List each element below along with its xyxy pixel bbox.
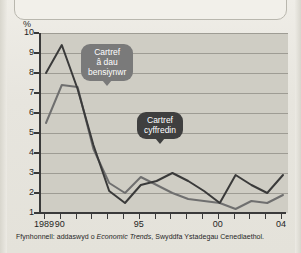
y-axis-tick-label: 2: [16, 188, 34, 197]
source-suffix: , Swyddfa Ystadegau Cenedlaethol.: [151, 233, 264, 240]
x-axis-tick: [123, 214, 124, 219]
page-right-edge: [295, 0, 301, 253]
x-axis-tick-label: 00: [213, 219, 223, 229]
y-axis-tick-label: 1: [16, 208, 34, 217]
chart-card-top-border: [14, 0, 287, 20]
chart-page: % 10987654321 198990950004 Cartref â dau…: [0, 0, 301, 253]
source-prefix: Ffynhonnell: addaswyd o: [16, 233, 97, 240]
x-axis-tick: [155, 214, 156, 219]
y-axis-tick-label: 8: [16, 68, 34, 77]
y-axis-tick-label: 3: [16, 168, 34, 177]
source-publication: Economic Trends: [97, 233, 152, 240]
x-axis-tick: [186, 214, 187, 219]
callout-pensioner-line3: bensiynwr: [88, 67, 126, 77]
x-axis-tick: [76, 214, 77, 219]
callout-average-tail: [155, 138, 165, 144]
x-axis-tick: [107, 214, 108, 219]
source-footnote: Ffynhonnell: addaswyd o Economic Trends,…: [16, 233, 293, 240]
x-axis-tick: [170, 214, 171, 219]
y-axis-tick-label: 6: [16, 108, 34, 117]
y-axis-tick-label: 10: [16, 28, 34, 37]
callout-pensioner-line2: â dau: [88, 57, 126, 67]
y-axis-tick-label: 4: [16, 148, 34, 157]
x-axis-tick-label: 1989: [34, 219, 54, 229]
callout-pensioner-tail: [102, 80, 112, 86]
x-axis-tick: [91, 214, 92, 219]
callout-average-line1: Cartref: [144, 115, 176, 125]
page-left-edge: [0, 0, 7, 253]
callout-pensioner-household: Cartref â dau bensiynwr: [81, 44, 133, 81]
x-axis-tick-label: 95: [134, 219, 144, 229]
x-axis-tick-label: 04: [276, 219, 286, 229]
y-axis-tick-label: 5: [16, 128, 34, 137]
x-axis-tick: [265, 214, 266, 219]
x-axis-tick: [249, 214, 250, 219]
callout-average-line2: cyffredin: [144, 125, 176, 135]
callout-pensioner-line1: Cartref: [88, 47, 126, 57]
x-axis-tick: [202, 214, 203, 219]
y-axis-tick-label: 9: [16, 48, 34, 57]
callout-average-household: Cartref cyffredin: [137, 112, 183, 139]
x-axis-tick-label: 90: [55, 219, 65, 229]
x-axis-tick: [234, 214, 235, 219]
y-axis-tick-label: 7: [16, 88, 34, 97]
